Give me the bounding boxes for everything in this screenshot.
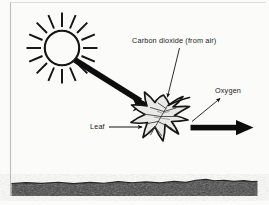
label-oxygen: Oxygen: [215, 87, 241, 94]
photosynthesis-diagram: Carbon dioxide (from air) Oxygen Leaf: [0, 0, 269, 205]
sunlight-arrow: [74, 58, 150, 112]
ground-band: [12, 179, 258, 196]
carbon-dioxide-pointer-arrow: [168, 48, 180, 97]
label-carbon-dioxide: Carbon dioxide (from air): [132, 37, 216, 44]
sun-icon: [27, 13, 98, 84]
oxygen-output-arrow: [191, 120, 254, 135]
oxygen-pointer-arrow: [192, 99, 220, 122]
diagram-canvas: [0, 0, 269, 205]
label-leaf: Leaf: [90, 123, 105, 130]
